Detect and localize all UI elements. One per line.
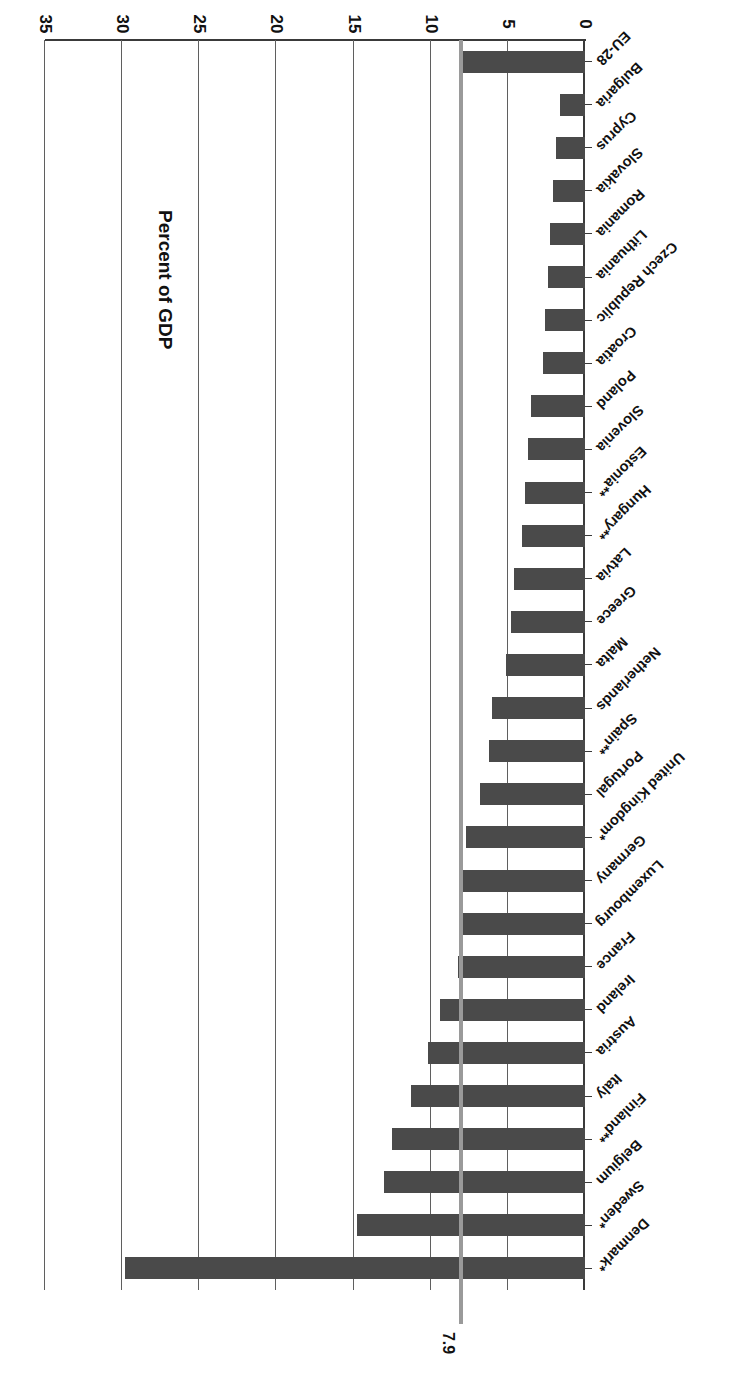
- chart-page: Percent of GDP 05101520253035Denmark*Swe…: [0, 0, 741, 1378]
- category-axis-tick: [585, 104, 592, 105]
- bar: [411, 1085, 585, 1107]
- bar: [460, 913, 585, 935]
- category-axis-tick: [585, 61, 592, 62]
- category-axis-tick: [585, 708, 592, 709]
- bar: [525, 482, 585, 504]
- category-axis-tick: [585, 1052, 592, 1053]
- category-axis-tick: [585, 621, 592, 622]
- bar-chart: Percent of GDP 05101520253035Denmark*Swe…: [0, 0, 741, 1378]
- category-axis-tick: [585, 578, 592, 579]
- gridline: [44, 40, 45, 1290]
- category-axis-tick: [585, 277, 592, 278]
- category-axis-tick: [585, 535, 592, 536]
- reference-line-label: 7.9: [439, 1332, 457, 1354]
- value-axis-tick-label: 10: [421, 4, 441, 44]
- category-axis-tick: [585, 923, 592, 924]
- category-axis-tick: [585, 147, 592, 148]
- bar: [428, 1042, 585, 1064]
- bar: [514, 568, 585, 590]
- bar: [528, 438, 585, 460]
- bar: [545, 309, 585, 331]
- bar: [125, 1257, 585, 1279]
- bar: [550, 223, 585, 245]
- rotated-chart-container: Percent of GDP 05101520253035Denmark*Swe…: [0, 0, 741, 1378]
- value-axis-tick-label: 20: [266, 4, 286, 44]
- category-axis-tick: [585, 320, 592, 321]
- value-axis-tick-label: 25: [189, 4, 209, 44]
- bar: [506, 654, 585, 676]
- category-axis-tick: [585, 1009, 592, 1010]
- category-axis-tick: [585, 794, 592, 795]
- bar: [553, 180, 585, 202]
- bar: [463, 870, 585, 892]
- bar: [459, 956, 586, 978]
- category-axis-tick: [585, 233, 592, 234]
- bar: [392, 1128, 585, 1150]
- bar: [489, 740, 585, 762]
- category-axis-tick: [585, 880, 592, 881]
- bar: [466, 826, 585, 848]
- bar: [560, 94, 585, 116]
- reference-line: [459, 40, 463, 1324]
- bar: [522, 525, 585, 547]
- gridline: [198, 40, 199, 1290]
- category-axis-tick: [585, 1096, 592, 1097]
- bar: [492, 697, 585, 719]
- category-axis-tick: [585, 837, 592, 838]
- bar: [511, 611, 585, 633]
- value-axis-tick-label: 35: [35, 4, 55, 44]
- category-axis-tick: [585, 966, 592, 967]
- value-axis-tick-label: 0: [575, 4, 595, 44]
- category-axis-tick: [585, 1139, 592, 1140]
- bar: [357, 1214, 585, 1236]
- bar: [463, 51, 585, 73]
- category-axis-tick: [585, 751, 592, 752]
- bar: [480, 783, 585, 805]
- category-axis-tick: [585, 1182, 592, 1183]
- category-axis-tick: [585, 665, 592, 666]
- plot-area: [45, 40, 585, 1290]
- category-axis-tick: [585, 1225, 592, 1226]
- bar: [556, 137, 585, 159]
- value-axis-tick-label: 30: [112, 4, 132, 44]
- category-axis-tick: [585, 363, 592, 364]
- bar: [543, 352, 585, 374]
- bar: [548, 266, 585, 288]
- bar: [384, 1171, 585, 1193]
- value-axis-tick-label: 15: [344, 4, 364, 44]
- value-axis-tick-label: 5: [498, 4, 518, 44]
- category-axis-tick: [585, 1268, 592, 1269]
- gridline: [121, 40, 122, 1290]
- gridline: [353, 40, 354, 1290]
- category-axis-tick: [585, 492, 592, 493]
- category-axis-tick: [585, 406, 592, 407]
- category-axis-tick: [585, 190, 592, 191]
- bar: [531, 395, 585, 417]
- gridline: [275, 40, 276, 1290]
- category-axis-tick: [585, 449, 592, 450]
